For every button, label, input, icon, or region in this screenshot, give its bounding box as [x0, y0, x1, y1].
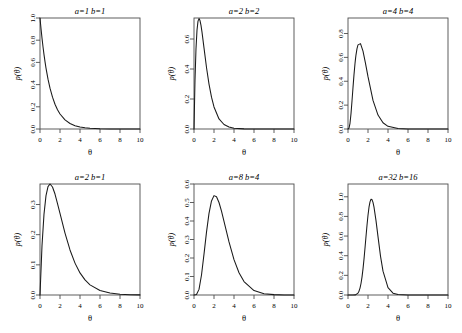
- y-tick-label: 0.8: [337, 212, 345, 221]
- y-tick-label: 0.2: [29, 102, 37, 111]
- plot-svg: a=2 b=10246810θ0.00.10.20.3p(θ): [0, 166, 154, 332]
- panel-title: a=2 b=1: [75, 172, 106, 182]
- panel-title: a=4 b=4: [383, 6, 414, 16]
- plot-svg: a=8 b=40246810θ0.00.10.20.30.40.50.6p(θ): [154, 166, 308, 332]
- x-axis-label: θ: [396, 147, 400, 157]
- panel-title: a=2 b=2: [229, 6, 260, 16]
- y-tick-label: 0.1: [183, 272, 191, 281]
- x-tick-label: 10: [445, 302, 453, 310]
- y-tick-label: 1.0: [337, 192, 345, 201]
- panel-background: [154, 0, 308, 166]
- x-tick-label: 10: [291, 302, 299, 310]
- plot-svg: a=32 b=160246810θ0.00.20.40.60.81.0p(θ): [308, 166, 462, 332]
- y-tick-label: 0.6: [337, 53, 345, 62]
- x-tick-label: 6: [98, 136, 102, 144]
- x-tick-label: 4: [386, 136, 390, 144]
- plot-panel-6: a=32 b=160246810θ0.00.20.40.60.81.0p(θ): [308, 166, 462, 332]
- x-tick-label: 4: [232, 302, 236, 310]
- x-tick-label: 0: [38, 136, 42, 144]
- y-tick-label: 0.0: [29, 124, 37, 133]
- x-tick-label: 6: [406, 302, 410, 310]
- y-tick-label: 0.8: [337, 29, 345, 38]
- y-tick-label: 0.8: [29, 35, 37, 44]
- y-tick-label: 0.6: [337, 231, 345, 240]
- panel-title: a=8 b=4: [229, 172, 260, 182]
- x-tick-label: 10: [445, 136, 453, 144]
- x-tick-label: 0: [38, 302, 42, 310]
- x-axis-label: θ: [88, 313, 92, 323]
- x-tick-label: 2: [58, 136, 62, 144]
- x-tick-label: 2: [212, 136, 216, 144]
- plot-svg: a=4 b=40246810θ0.00.20.40.60.8p(θ): [308, 0, 462, 166]
- x-tick-label: 0: [192, 302, 196, 310]
- x-tick-label: 6: [406, 136, 410, 144]
- x-tick-label: 10: [137, 136, 145, 144]
- y-tick-label: 0.3: [29, 200, 37, 209]
- plot-panel-1: a=1 b=10246810θ0.00.20.40.60.81.0p(θ): [0, 0, 154, 166]
- x-tick-label: 6: [252, 136, 256, 144]
- panel-title: a=1 b=1: [75, 6, 106, 16]
- y-tick-label: 0.0: [29, 290, 37, 299]
- y-axis-label: p(θ): [321, 67, 330, 82]
- y-tick-label: 0.4: [183, 64, 191, 73]
- y-axis-label: p(θ): [321, 233, 330, 248]
- y-tick-label: 0.4: [29, 80, 37, 89]
- y-tick-label: 0.2: [183, 94, 191, 103]
- y-tick-label: 0.6: [183, 179, 191, 188]
- y-tick-label: 0.2: [337, 100, 345, 109]
- x-tick-label: 4: [78, 302, 82, 310]
- x-tick-label: 8: [426, 302, 430, 310]
- y-tick-label: 0.2: [29, 230, 37, 239]
- y-tick-label: 0.4: [337, 76, 345, 85]
- x-tick-label: 10: [137, 302, 145, 310]
- x-tick-label: 2: [366, 302, 370, 310]
- y-tick-label: 0.4: [337, 251, 345, 260]
- plot-panel-5: a=8 b=40246810θ0.00.10.20.30.40.50.6p(θ): [154, 166, 308, 332]
- y-tick-label: 0.6: [183, 34, 191, 43]
- panel-background: [0, 166, 154, 332]
- y-tick-label: 0.1: [29, 260, 37, 269]
- x-tick-label: 0: [192, 136, 196, 144]
- y-tick-label: 0.6: [29, 58, 37, 67]
- panel-background: [308, 166, 462, 332]
- x-tick-label: 8: [118, 302, 122, 310]
- x-tick-label: 8: [272, 136, 276, 144]
- x-tick-label: 4: [386, 302, 390, 310]
- y-tick-label: 0.0: [183, 124, 191, 133]
- x-axis-label: θ: [242, 313, 246, 323]
- y-tick-label: 0.2: [337, 270, 345, 279]
- y-tick-label: 0.0: [337, 290, 345, 299]
- x-axis-label: θ: [396, 313, 400, 323]
- x-tick-label: 8: [426, 136, 430, 144]
- plot-panel-4: a=2 b=10246810θ0.00.10.20.3p(θ): [0, 166, 154, 332]
- x-axis-label: θ: [88, 147, 92, 157]
- x-tick-label: 2: [366, 136, 370, 144]
- y-tick-label: 1.0: [29, 13, 37, 22]
- x-tick-label: 6: [252, 302, 256, 310]
- y-tick-label: 0.0: [183, 290, 191, 299]
- y-axis-label: p(θ): [13, 67, 22, 82]
- y-axis-label: p(θ): [167, 233, 176, 248]
- x-tick-label: 0: [346, 136, 350, 144]
- plot-svg: a=1 b=10246810θ0.00.20.40.60.81.0p(θ): [0, 0, 154, 166]
- panel-background: [308, 0, 462, 166]
- y-axis-label: p(θ): [167, 67, 176, 82]
- x-tick-label: 2: [212, 302, 216, 310]
- plot-panel-3: a=4 b=40246810θ0.00.20.40.60.8p(θ): [308, 0, 462, 166]
- x-axis-label: θ: [242, 147, 246, 157]
- plot-panel-2: a=2 b=20246810θ0.00.20.40.6p(θ): [154, 0, 308, 166]
- x-tick-label: 8: [118, 136, 122, 144]
- plot-svg: a=2 b=20246810θ0.00.20.40.6p(θ): [154, 0, 308, 166]
- x-tick-label: 4: [78, 136, 82, 144]
- y-tick-label: 0.0: [337, 124, 345, 133]
- y-tick-label: 0.4: [183, 216, 191, 225]
- x-tick-label: 4: [232, 136, 236, 144]
- plot-grid: a=1 b=10246810θ0.00.20.40.60.81.0p(θ)a=2…: [0, 0, 462, 333]
- x-tick-label: 6: [98, 302, 102, 310]
- y-axis-label: p(θ): [13, 233, 22, 248]
- x-tick-label: 10: [291, 136, 299, 144]
- x-tick-label: 8: [272, 302, 276, 310]
- y-tick-label: 0.2: [183, 253, 191, 262]
- x-tick-label: 0: [346, 302, 350, 310]
- y-tick-label: 0.5: [183, 198, 191, 207]
